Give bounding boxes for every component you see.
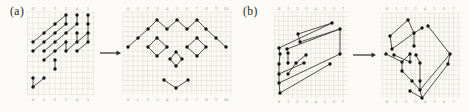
- tick-label: 7: [452, 6, 455, 11]
- vertex-dot: [42, 40, 45, 43]
- vertex-dot: [86, 40, 89, 43]
- tick-label: 6: [443, 99, 446, 104]
- tick-label: 8: [205, 97, 208, 102]
- vertex-dot: [277, 72, 280, 75]
- tick-label: 4: [424, 99, 427, 104]
- vertex-dot: [388, 34, 391, 37]
- tick-label: 6: [443, 6, 446, 11]
- tick-label: 4: [424, 6, 427, 11]
- vertex-dot: [406, 18, 409, 21]
- vertex-dot: [418, 61, 421, 64]
- tick-label: 3: [65, 97, 68, 102]
- vertex-dot: [285, 47, 288, 50]
- vertex-dot: [75, 31, 78, 34]
- tick-label: 5: [433, 6, 436, 11]
- grid-lines: [28, 12, 94, 95]
- vertex-dot: [338, 52, 341, 55]
- tick-label: 3: [65, 6, 68, 11]
- vertex-dot: [286, 51, 289, 54]
- vertex-dot: [277, 81, 280, 84]
- tick-label: 2: [296, 6, 299, 11]
- vertex-dot: [446, 62, 449, 65]
- vertex-dot: [286, 61, 289, 64]
- edge-line: [157, 47, 167, 56]
- vertex-dot: [53, 40, 56, 43]
- vertex-dot: [195, 18, 198, 21]
- diagram-a-right: 001122334455667788991010: [123, 6, 231, 102]
- vertex-dot: [31, 85, 34, 88]
- tick-label: 5: [87, 6, 90, 11]
- tick-label: 0: [32, 97, 35, 102]
- edge-set: [386, 20, 450, 98]
- vertex-dot: [174, 64, 177, 67]
- tick-label: 9: [215, 97, 218, 102]
- figure-canvas: 0011223344550011223344556677889910100011…: [0, 0, 469, 112]
- tick-label: 0: [127, 6, 130, 11]
- vertex-dot: [400, 60, 403, 63]
- tick-label: 2: [405, 99, 408, 104]
- vertex-dot: [42, 76, 45, 79]
- vertex-dot: [328, 62, 331, 65]
- vertex-dot: [426, 24, 429, 27]
- vertex-dot: [420, 26, 423, 29]
- vertex-dot: [75, 49, 78, 52]
- tick-label: 7: [342, 6, 345, 11]
- vertex-dot: [294, 61, 297, 64]
- vertex-dot: [31, 40, 34, 43]
- tick-label: 0: [32, 6, 35, 11]
- vertex-dot: [278, 91, 281, 94]
- vertex-dot: [286, 72, 289, 75]
- tick-label: 10: [224, 97, 229, 102]
- tick-label: 3: [156, 97, 159, 102]
- vertex-dot: [42, 31, 45, 34]
- diagram-b-left: 0011223344556677: [274, 6, 347, 104]
- vertex-dot: [414, 53, 417, 56]
- vertex-dot: [390, 47, 393, 50]
- vertex-dot: [53, 58, 56, 61]
- tick-label: 3: [305, 6, 308, 11]
- tick-label: 6: [186, 6, 189, 11]
- vertex-dot: [204, 45, 207, 48]
- tick-label: 0: [386, 6, 389, 11]
- edge-line: [288, 63, 296, 74]
- edge-line: [187, 47, 197, 56]
- tick-label: 1: [287, 6, 290, 11]
- vertex-dot: [75, 22, 78, 25]
- vertex-dot: [42, 58, 45, 61]
- tick-label: 5: [433, 99, 436, 104]
- vertex-dot: [338, 27, 341, 30]
- vertex-dot: [146, 45, 149, 48]
- vertex-dot: [53, 31, 56, 34]
- vertex-dot: [296, 32, 299, 35]
- arrow-icon: [353, 52, 376, 57]
- tick-label: 3: [156, 6, 159, 11]
- grid-lines: [274, 12, 347, 98]
- tick-label: 4: [76, 6, 79, 11]
- vertex-dot: [408, 60, 411, 63]
- figure-container: 0011223344550011223344556677889910100011…: [0, 0, 469, 112]
- tick-label: 5: [324, 99, 327, 104]
- edge-line: [164, 80, 176, 88]
- vertex-dot: [86, 31, 89, 34]
- vertex-dot: [86, 13, 89, 16]
- vertex-dot: [64, 22, 67, 25]
- tick-label: 3: [305, 99, 308, 104]
- vertex-dot: [31, 49, 34, 52]
- vertex-dot: [168, 57, 171, 60]
- vertex-dot: [392, 53, 395, 56]
- tick-label: 3: [414, 6, 417, 11]
- tick-label: 2: [146, 97, 149, 102]
- vertex-dot: [418, 79, 421, 82]
- vertex-dot: [64, 49, 67, 52]
- tick-label: 6: [186, 97, 189, 102]
- vertex-dot: [330, 21, 333, 24]
- tick-label: 10: [224, 6, 229, 11]
- arrow-head: [372, 52, 377, 57]
- tick-label: 8: [205, 6, 208, 11]
- tick-label: 4: [166, 97, 169, 102]
- tick-label: 1: [395, 6, 398, 11]
- edge-line: [420, 54, 450, 90]
- diagram-b-right: 0011223344556677: [382, 6, 460, 104]
- tick-label: 2: [405, 6, 408, 11]
- vertex-dot: [418, 88, 421, 91]
